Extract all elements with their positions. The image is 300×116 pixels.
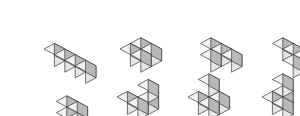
cube-shapes-figure: [0, 0, 300, 116]
cube-shape-canvas: [230, 62, 300, 116]
cube-shape-tower-with-side-cube: [230, 62, 300, 116]
